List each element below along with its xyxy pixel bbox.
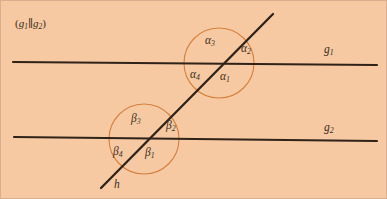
angle-label-alpha1: α1	[220, 71, 230, 84]
line-g2	[14, 137, 377, 141]
angle-label-alpha3: α3	[205, 35, 215, 48]
angle-label-beta1: β1	[145, 147, 155, 160]
alpha3-sub: 3	[211, 39, 215, 48]
line-h-transversal	[101, 14, 273, 188]
parallel-condition-note: (g1∥g2)	[15, 18, 46, 31]
label-line-g1: g1	[324, 44, 334, 57]
label-line-g2: g2	[324, 122, 334, 135]
label-line-h: h	[114, 179, 120, 191]
beta3-sub: 3	[137, 117, 141, 126]
angle-label-beta3: β3	[131, 113, 141, 126]
alpha1-sub: 1	[226, 75, 230, 84]
alpha4-sub: 4	[196, 73, 200, 82]
close-paren: )	[42, 17, 46, 29]
angle-label-alpha4: α4	[190, 69, 200, 82]
alpha2-sub: 2	[247, 47, 251, 56]
geometry-figure: (g1∥g2) g1 g2 h α1 α2 α3 α4 β1 β2 β3 β4	[0, 0, 387, 199]
beta1-sub: 1	[151, 151, 155, 160]
label-g2-sub: 2	[330, 126, 334, 135]
angle-label-beta2: β2	[166, 120, 176, 133]
line-g1	[13, 62, 377, 65]
angle-label-beta4: β4	[113, 146, 123, 159]
beta4-sub: 4	[119, 150, 123, 159]
label-g1-sub: 1	[330, 48, 334, 57]
diagram-canvas	[1, 1, 387, 199]
beta2-sub: 2	[172, 124, 176, 133]
angle-label-alpha2: α2	[241, 43, 251, 56]
label-h-base: h	[114, 178, 120, 190]
